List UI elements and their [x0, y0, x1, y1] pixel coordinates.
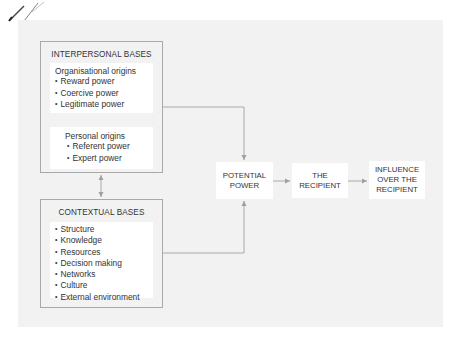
contextual-bases-title: CONTEXTUAL BASES: [41, 208, 162, 217]
organisational-origins-box: Organisational origins Reward power Coer…: [50, 63, 153, 113]
list-item: Expert power: [67, 153, 153, 164]
interpersonal-bases-box: INTERPERSONAL BASES Organisational origi…: [40, 41, 163, 173]
interpersonal-bases-title: INTERPERSONAL BASES: [41, 50, 162, 59]
organisational-origins-heading: Organisational origins: [55, 66, 153, 76]
list-item: Culture: [55, 280, 153, 291]
personal-origins-heading: Personal origins: [65, 131, 153, 141]
list-item: Networks: [55, 269, 153, 280]
contextual-bases-list: Structure Knowledge Resources Decision m…: [55, 224, 153, 303]
contextual-bases-box: CONTEXTUAL BASES Structure Knowledge Res…: [40, 199, 163, 308]
list-item: Resources: [55, 247, 153, 258]
contextual-bases-list-box: Structure Knowledge Resources Decision m…: [50, 222, 153, 298]
list-item: Decision making: [55, 258, 153, 269]
potential-power-node: POTENTIAL POWER: [216, 162, 273, 199]
recipient-node: THE RECIPIENT: [292, 163, 348, 198]
list-item: Referent power: [67, 141, 153, 152]
personal-origins-list: Referent power Expert power: [65, 141, 153, 164]
list-item: Structure: [55, 224, 153, 235]
list-item: Reward power: [55, 76, 153, 87]
influence-over-recipient-node: INFLUENCE OVER THE RECIPIENT: [369, 161, 425, 199]
list-item: External environment: [55, 292, 153, 303]
personal-origins-box: Personal origins Referent power Expert p…: [50, 127, 153, 169]
list-item: Legitimate power: [55, 99, 153, 110]
list-item: Knowledge: [55, 235, 153, 246]
list-item: Coercive power: [55, 88, 153, 99]
organisational-origins-list: Reward power Coercive power Legitimate p…: [55, 76, 153, 110]
